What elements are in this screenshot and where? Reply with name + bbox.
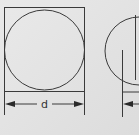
dimension-label-d: d xyxy=(41,98,48,111)
diagram-canvas: d xyxy=(0,0,139,135)
paper-background xyxy=(0,0,139,135)
